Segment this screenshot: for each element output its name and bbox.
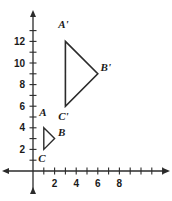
y-tick-label: 12 — [14, 36, 26, 47]
x-axis-tick-labels: 2468 — [52, 178, 123, 189]
y-tick-label: 8 — [19, 79, 25, 90]
triangle-a-prime-b-prime-c-prime — [65, 41, 97, 106]
vertex-label-b: B — [57, 126, 65, 138]
vertex-labels-layer: ABCA'B'C' — [38, 18, 111, 164]
y-tick-label: 6 — [19, 101, 25, 112]
x-tick-label: 6 — [95, 178, 101, 189]
vertex-label-a-prime: A' — [57, 18, 68, 30]
x-tick-label: 2 — [52, 178, 58, 189]
y-tick-label: 10 — [14, 58, 26, 69]
y-axis-tick-labels: 24681012 — [14, 36, 26, 155]
vertex-label-b-prime: B' — [100, 61, 111, 73]
x-tick-label: 4 — [73, 178, 79, 189]
axes — [8, 16, 164, 193]
x-tick-label: 8 — [117, 178, 123, 189]
coordinate-plane-figure: 2468 24681012 ABCA'B'C' — [0, 0, 172, 201]
vertex-label-a: A — [38, 106, 46, 118]
y-tick-label: 2 — [19, 144, 25, 155]
y-tick-label: 4 — [19, 122, 25, 133]
triangle-abc — [44, 128, 55, 150]
vertex-label-c: C — [38, 152, 46, 164]
shapes-layer — [44, 41, 98, 149]
vertex-label-c-prime: C' — [58, 110, 68, 122]
